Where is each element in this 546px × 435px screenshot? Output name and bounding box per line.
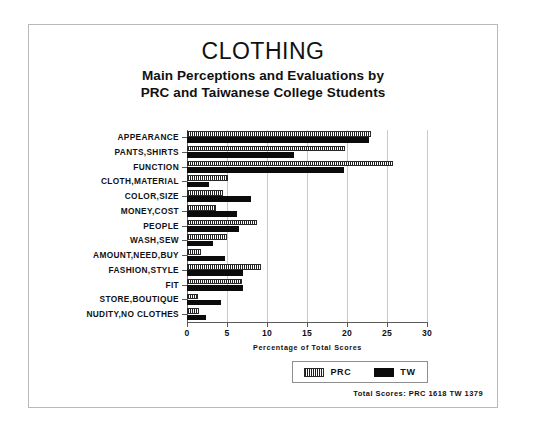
category-row: PANTS,SHIRTS — [187, 145, 427, 160]
bar-tw — [187, 270, 243, 276]
x-tick-label: 5 — [212, 328, 242, 338]
x-tick-label: 30 — [412, 328, 442, 338]
category-label: PANTS,SHIRTS — [115, 145, 179, 160]
x-tick — [347, 322, 348, 327]
x-tick — [387, 322, 388, 327]
category-label: AMOUNT,NEED,BUY — [93, 248, 179, 263]
bar-tw — [187, 285, 243, 291]
legend-item-prc[interactable]: PRC — [304, 367, 351, 377]
category-row: NUDITY,NO CLOTHES — [187, 307, 427, 322]
category-label: FUNCTION — [133, 160, 179, 175]
category-row: PEOPLE — [187, 219, 427, 234]
category-row: COLOR,SIZE — [187, 189, 427, 204]
category-label: MONEY,COST — [121, 204, 179, 219]
totals-footnote: Total Scores: PRC 1618 TW 1379 — [29, 389, 483, 398]
x-tick — [187, 322, 188, 327]
bar-prc — [187, 131, 371, 137]
category-label: FIT — [166, 278, 180, 293]
x-tick — [267, 322, 268, 327]
category-row: CLOTH,MATERIAL — [187, 174, 427, 189]
x-axis-title: Percentage of Total Scores — [187, 343, 428, 352]
legend-label-tw: TW — [400, 367, 415, 377]
category-row: FIT — [187, 278, 427, 293]
bar-tw — [187, 226, 239, 232]
category-label: FASHION,STYLE — [109, 263, 179, 278]
category-label: PEOPLE — [143, 219, 179, 234]
category-row: WASH,SEW — [187, 233, 427, 248]
bar-prc — [187, 161, 393, 167]
x-tick-label: 20 — [332, 328, 362, 338]
chart-subtitle: Main Perceptions and Evaluations by PRC … — [29, 68, 497, 102]
x-tick-label: 0 — [172, 328, 202, 338]
chart-subtitle-line-1: Main Perceptions and Evaluations by — [29, 68, 497, 85]
bar-tw — [187, 182, 209, 188]
bar-tw — [187, 241, 213, 247]
legend-swatch-prc-icon — [304, 368, 324, 377]
category-label: STORE,BOUTIQUE — [100, 292, 179, 307]
bar-prc — [187, 220, 257, 226]
category-row: FUNCTION — [187, 160, 427, 175]
bar-prc — [187, 205, 216, 211]
plot-area: APPEARANCEPANTS,SHIRTSFUNCTIONCLOTH,MATE… — [187, 130, 427, 322]
category-label: COLOR,SIZE — [125, 189, 179, 204]
category-row: APPEARANCE — [187, 130, 427, 145]
legend-item-tw[interactable]: TW — [374, 367, 415, 377]
bar-prc — [187, 234, 227, 240]
bar-prc — [187, 146, 345, 152]
bar-tw — [187, 137, 369, 143]
bar-tw — [187, 211, 237, 217]
category-label: CLOTH,MATERIAL — [101, 174, 179, 189]
legend-label-prc: PRC — [330, 367, 351, 377]
bar-tw — [187, 315, 206, 321]
x-tick — [227, 322, 228, 327]
category-row: MONEY,COST — [187, 204, 427, 219]
bar-prc — [187, 190, 223, 196]
x-tick-label: 10 — [252, 328, 282, 338]
figure-frame: CLOTHING Main Perceptions and Evaluation… — [28, 24, 498, 408]
x-tick-label: 15 — [292, 328, 322, 338]
gridline-30 — [427, 130, 428, 322]
x-tick — [427, 322, 428, 327]
x-tick — [307, 322, 308, 327]
category-row: AMOUNT,NEED,BUY — [187, 248, 427, 263]
category-label: APPEARANCE — [117, 130, 179, 145]
bar-tw — [187, 152, 294, 158]
page-title: CLOTHING — [29, 39, 497, 63]
bar-tw — [187, 300, 221, 306]
bar-prc — [187, 279, 242, 285]
bar-prc — [187, 249, 201, 255]
category-label: WASH,SEW — [130, 233, 179, 248]
category-row: STORE,BOUTIQUE — [187, 292, 427, 307]
chart-subtitle-line-2: PRC and Taiwanese College Students — [29, 85, 497, 102]
bar-tw — [187, 196, 251, 202]
bar-prc — [187, 294, 198, 300]
bar-prc — [187, 264, 261, 270]
category-row: FASHION,STYLE — [187, 263, 427, 278]
bar-prc — [187, 308, 199, 314]
chart-legend: PRC TW — [292, 361, 428, 383]
bar-prc — [187, 175, 228, 181]
title-block: CLOTHING Main Perceptions and Evaluation… — [29, 39, 497, 102]
category-label: NUDITY,NO CLOTHES — [86, 307, 179, 322]
legend-swatch-tw-icon — [374, 368, 394, 377]
bar-tw — [187, 167, 344, 173]
bar-tw — [187, 256, 225, 262]
x-tick-label: 25 — [372, 328, 402, 338]
